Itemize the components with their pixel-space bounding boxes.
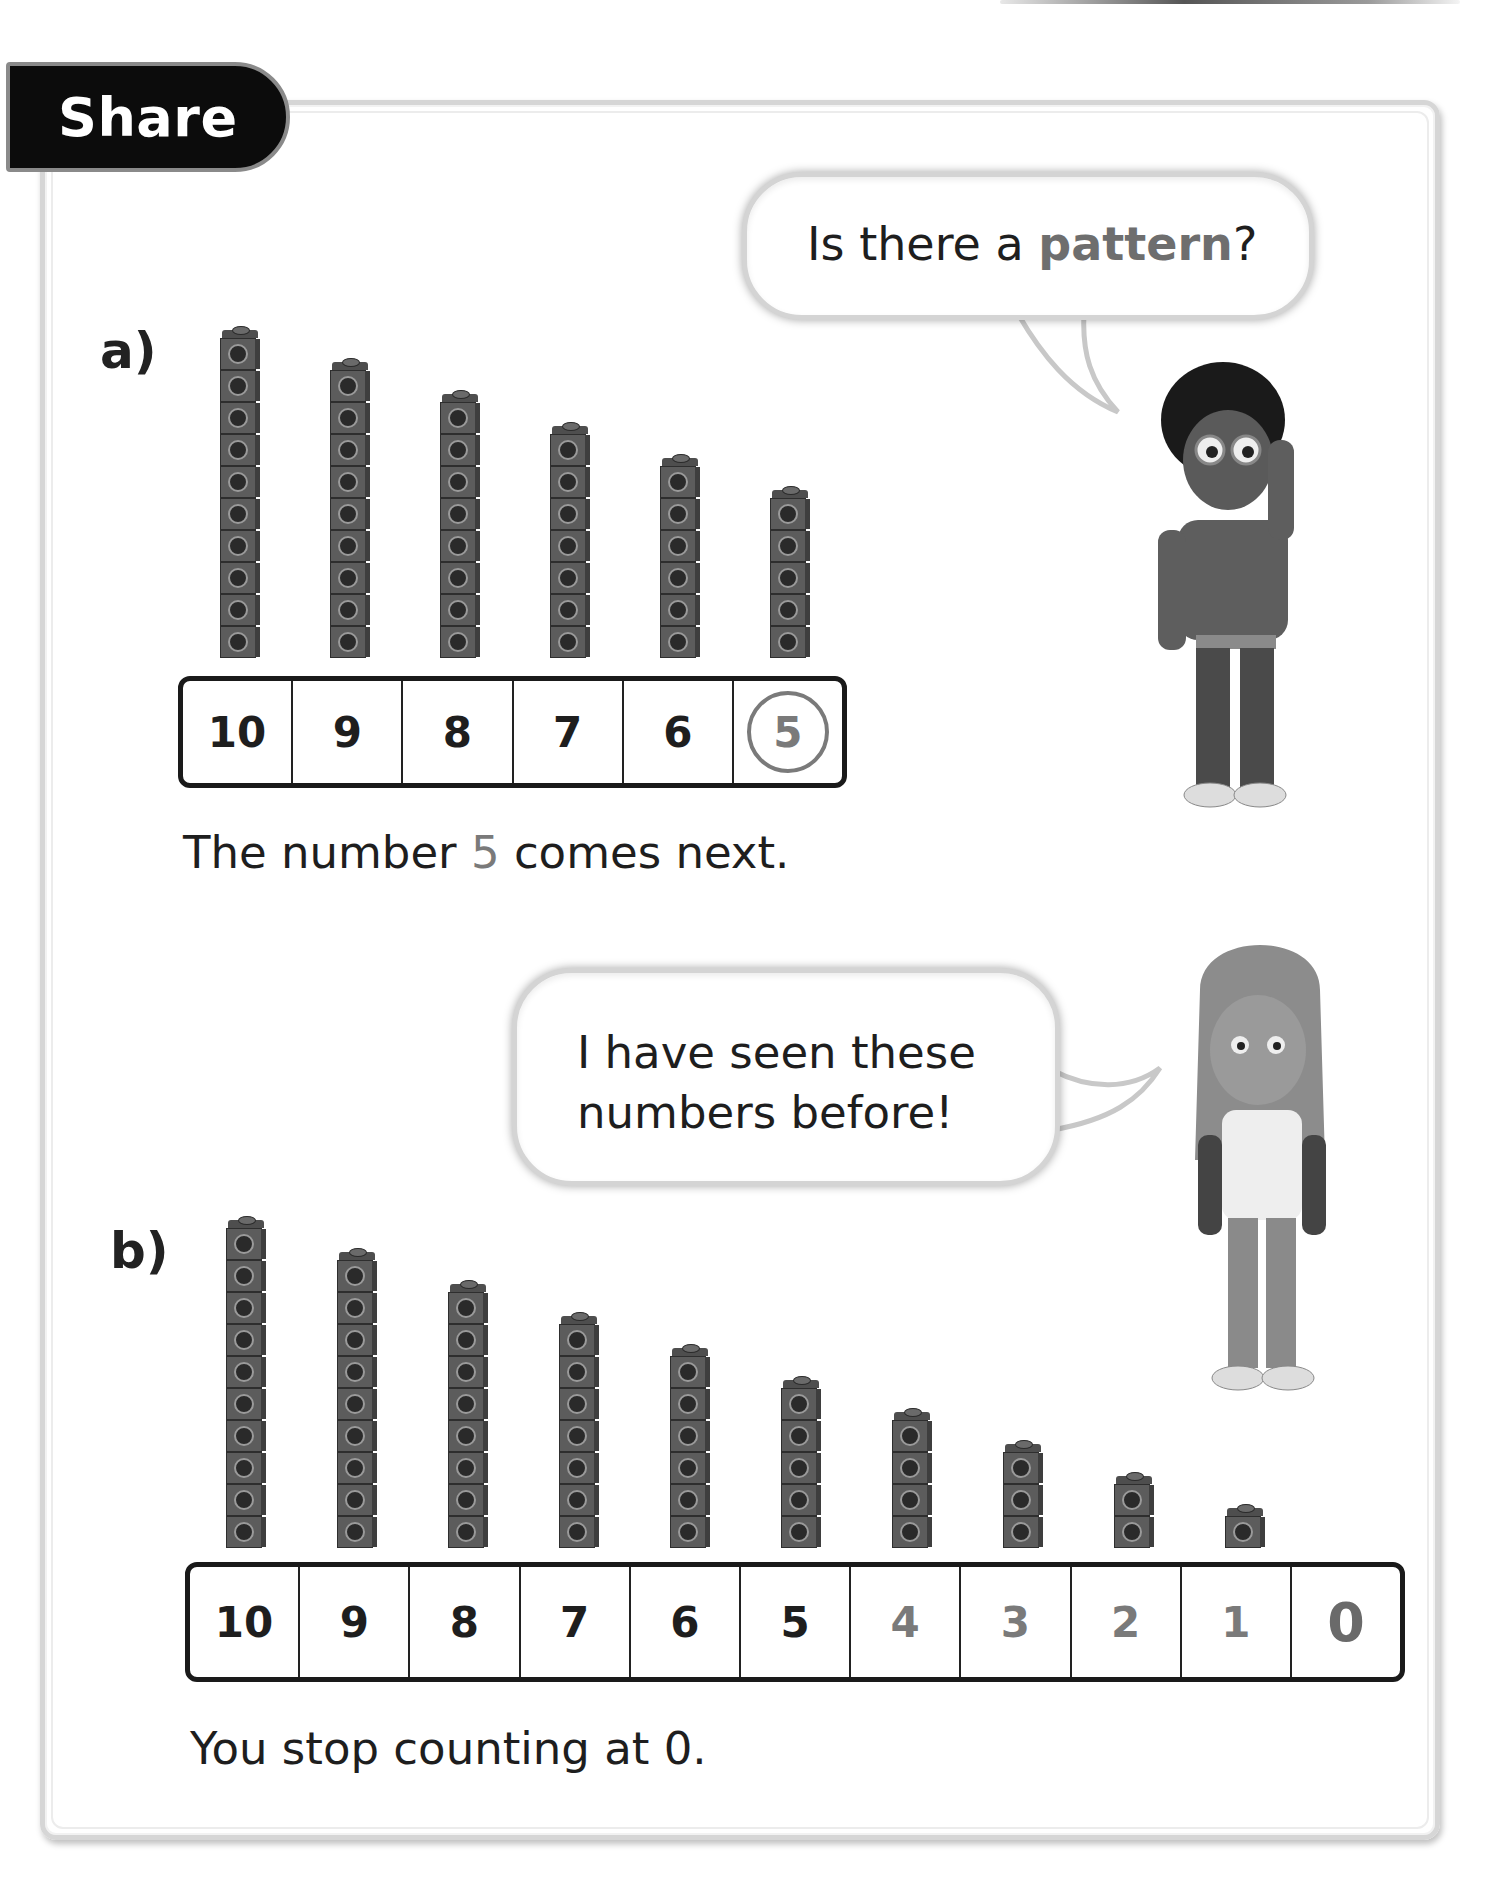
cube-icon <box>770 626 806 658</box>
cube-icon <box>337 1356 373 1388</box>
cube-icon <box>448 1324 484 1356</box>
cube-stack <box>335 1252 375 1548</box>
cube-icon <box>226 1516 262 1548</box>
cube-icon <box>226 1228 262 1260</box>
cube-stack <box>446 1284 486 1548</box>
cube-icon <box>781 1388 817 1420</box>
cube-icon <box>550 626 586 658</box>
cube-icon <box>330 594 366 626</box>
cube-icon <box>220 402 256 434</box>
number-track-b: 109876543210 <box>185 1562 1405 1682</box>
cube-icon <box>550 530 586 562</box>
track-cell: 10 <box>183 681 293 783</box>
track-cell: 1 <box>1182 1567 1292 1677</box>
cube-stack <box>438 394 478 658</box>
cube-icon <box>1003 1484 1039 1516</box>
cube-icon <box>337 1260 373 1292</box>
cube-icon <box>448 1292 484 1324</box>
cube-icon <box>660 594 696 626</box>
cube-icon <box>559 1356 595 1388</box>
track-cell: 2 <box>1072 1567 1182 1677</box>
cube-stack <box>779 1380 819 1548</box>
cube-icon <box>770 530 806 562</box>
cube-icon <box>226 1260 262 1292</box>
cube-stack <box>224 1220 264 1548</box>
cube-icon <box>1003 1516 1039 1548</box>
cube-icon <box>550 434 586 466</box>
cube-icon <box>220 530 256 562</box>
cube-icon <box>226 1420 262 1452</box>
cube-icon <box>337 1388 373 1420</box>
cube-icon <box>550 466 586 498</box>
part-b-label: b) <box>110 1222 169 1280</box>
cube-icon <box>226 1292 262 1324</box>
cube-icon <box>781 1420 817 1452</box>
cube-icon <box>559 1452 595 1484</box>
cube-stack <box>768 490 808 658</box>
track-cell: 7 <box>521 1567 631 1677</box>
cube-icon <box>330 434 366 466</box>
track-cell: 6 <box>631 1567 741 1677</box>
cube-icon <box>770 594 806 626</box>
cube-icon <box>226 1324 262 1356</box>
cube-icon <box>330 498 366 530</box>
bubble-keyword: pattern <box>1038 217 1233 271</box>
part-a-label: a) <box>100 322 157 380</box>
cube-icon <box>448 1420 484 1452</box>
cube-icon <box>337 1292 373 1324</box>
cube-icon <box>781 1452 817 1484</box>
cube-icon <box>220 338 256 370</box>
cube-icon <box>559 1388 595 1420</box>
cube-icon <box>670 1356 706 1388</box>
cube-icon <box>892 1420 928 1452</box>
sentence-a: The number 5 comes next. <box>183 826 789 879</box>
track-cell: 0 <box>1292 1567 1400 1677</box>
cube-icon <box>220 370 256 402</box>
cube-icon <box>559 1324 595 1356</box>
speech-bubble-tail-icon <box>1010 312 1130 422</box>
cube-icon <box>781 1516 817 1548</box>
cube-icon <box>337 1324 373 1356</box>
track-cell: 3 <box>961 1567 1071 1677</box>
cube-icon <box>220 498 256 530</box>
cube-icon <box>670 1420 706 1452</box>
track-cell: 8 <box>410 1567 520 1677</box>
boy-character-icon <box>1148 350 1318 810</box>
cube-icon <box>337 1484 373 1516</box>
cube-icon <box>559 1516 595 1548</box>
cube-icon <box>330 562 366 594</box>
cube-icon <box>220 434 256 466</box>
answer-number: 5 <box>471 826 500 879</box>
cube-stack <box>218 330 258 658</box>
cube-icon <box>892 1452 928 1484</box>
cube-icon <box>226 1356 262 1388</box>
cube-icon <box>440 594 476 626</box>
bubble-line-2: numbers before! <box>577 1083 976 1143</box>
track-cell: 6 <box>624 681 734 783</box>
cube-stack <box>557 1316 597 1548</box>
bubble-line-1: I have seen these <box>577 1023 976 1083</box>
cube-icon <box>448 1388 484 1420</box>
cube-icon <box>220 626 256 658</box>
cube-icon <box>337 1516 373 1548</box>
cube-icon <box>1225 1516 1261 1548</box>
cube-stack <box>1112 1476 1152 1548</box>
cube-icon <box>330 530 366 562</box>
cube-stack <box>548 426 588 658</box>
cube-icon <box>448 1516 484 1548</box>
cube-icon <box>440 530 476 562</box>
cube-icon <box>330 626 366 658</box>
bubble-text: Is there a <box>807 217 1038 271</box>
track-cell: 9 <box>293 681 403 783</box>
cube-icon <box>559 1484 595 1516</box>
cube-icon <box>892 1484 928 1516</box>
cube-icon <box>1114 1516 1150 1548</box>
cube-icon <box>440 626 476 658</box>
cube-stack <box>328 362 368 658</box>
cube-icon <box>448 1356 484 1388</box>
cube-icon <box>670 1516 706 1548</box>
track-cell: 7 <box>514 681 624 783</box>
share-title: Share <box>58 86 238 149</box>
cube-stack <box>668 1348 708 1548</box>
cube-icon <box>660 466 696 498</box>
